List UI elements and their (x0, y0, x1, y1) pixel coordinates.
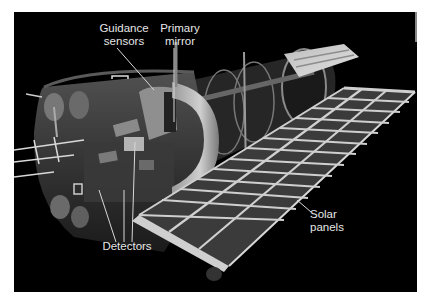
label-solar-panels-line2: panels (310, 221, 350, 234)
label-solar-panels-line1: Solar (310, 208, 350, 221)
label-primary-mirror: Primary mirror (152, 22, 208, 48)
label-primary-mirror-line2: mirror (152, 35, 208, 48)
diagram-frame: Guidance sensors Primary mirror Detector… (14, 12, 417, 292)
label-solar-panels: Solar panels (310, 208, 350, 234)
label-primary-mirror-line1: Primary (152, 22, 208, 35)
label-detectors-line1: Detectors (94, 240, 160, 253)
leader-solar-panels (297, 200, 311, 212)
telescope-illustration (14, 12, 417, 292)
label-detectors: Detectors (94, 240, 160, 253)
